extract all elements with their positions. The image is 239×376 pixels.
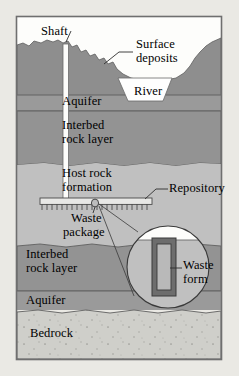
layer-interbed-upper bbox=[17, 111, 221, 166]
label-surface-deposits-line1: Surface bbox=[136, 38, 175, 51]
label-river: River bbox=[134, 85, 162, 98]
label-waste-form-line1: Waste bbox=[183, 259, 214, 272]
label-host-rock-line1: Host rock bbox=[62, 167, 112, 180]
label-repository: Repository bbox=[169, 182, 225, 195]
label-interbed-lower-line2: rock layer bbox=[26, 262, 77, 275]
label-waste-form-line2: form bbox=[183, 273, 208, 286]
label-interbed-lower-line1: Interbed bbox=[26, 248, 68, 261]
feature-waste-package-in-drift bbox=[91, 199, 98, 207]
repository-cross-section-figure: Shaft Surface deposits River Aquifer Int… bbox=[0, 0, 239, 376]
label-surface-deposits-line2: deposits bbox=[136, 52, 178, 65]
inset-waste-form bbox=[157, 244, 171, 290]
label-waste-package-line2: package bbox=[63, 226, 105, 239]
label-shaft: Shaft bbox=[41, 25, 68, 38]
label-aquifer-lower: Aquifer bbox=[26, 294, 66, 307]
label-interbed-upper-line1: Interbed bbox=[62, 119, 104, 132]
label-waste-package-line1: Waste bbox=[71, 212, 102, 225]
layer-aquifer-upper bbox=[17, 95, 221, 111]
label-interbed-upper-line2: rock layer bbox=[62, 133, 113, 146]
label-bedrock: Bedrock bbox=[30, 327, 73, 340]
label-host-rock-line2: formation bbox=[62, 181, 112, 194]
label-aquifer-upper: Aquifer bbox=[62, 95, 102, 108]
